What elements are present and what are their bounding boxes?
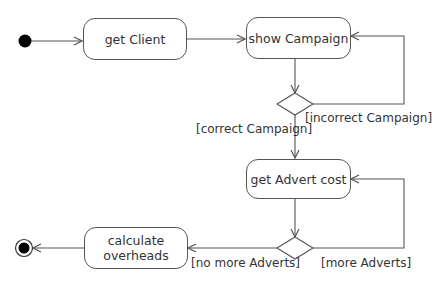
action-calculate-overheads: calculate overheads (84, 227, 188, 269)
action-get-advert-cost: get Advert cost (246, 159, 351, 199)
action-label-line-1: calculate (108, 233, 165, 248)
action-label: get Client (105, 32, 166, 47)
initial-node (19, 35, 32, 48)
action-label: get Advert cost (251, 172, 347, 187)
action-label-line-2: overheads (103, 248, 168, 263)
action-label: show Campaign (249, 31, 349, 46)
guard-incorrect-campaign: [incorrect Campaign] (305, 111, 432, 125)
action-show-campaign: show Campaign (246, 17, 351, 59)
guard-no-more-adverts: [no more Adverts] (191, 256, 300, 270)
guard-correct-campaign: [correct Campaign] (196, 122, 312, 136)
guard-more-adverts: [more Adverts] (321, 256, 411, 270)
final-node (19, 243, 30, 254)
action-get-client: get Client (83, 18, 187, 60)
